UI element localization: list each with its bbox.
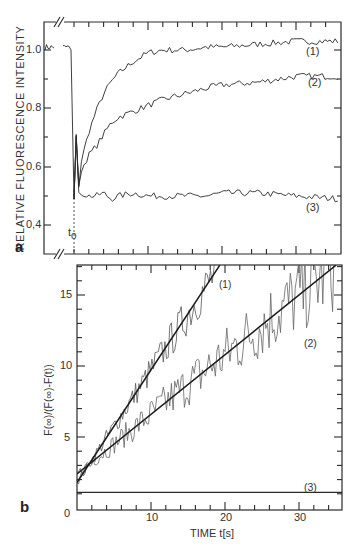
panel-b-xtick-10: 10 (146, 511, 158, 523)
panel-b-xtick-30: 30 (294, 511, 306, 523)
figure: RELATIVE FLUORESCENCE INTENSITY 1.0 0.8 … (0, 0, 361, 551)
panel-b-xtick-20: 20 (220, 511, 232, 523)
curve-1-data (77, 244, 219, 484)
panel-b-curve-3-label: (3) (304, 481, 317, 493)
panel-b-curve-2-label: (2) (304, 337, 317, 349)
panel-b-curve-1-label: (1) (219, 279, 231, 290)
panel-b-ytick-5: 5 (64, 431, 70, 443)
panel-b-x-axis-label: TIME t[s] (190, 527, 234, 539)
panel-b-plot (0, 0, 361, 551)
panel-b-ytick-0: 0 (64, 507, 70, 519)
panel-b-y-axis-label: F(∞)/(F(∞)-F(t)) (42, 364, 54, 436)
panel-b-ytick-10: 10 (60, 359, 72, 371)
panel-b-letter: b (20, 498, 29, 515)
panel-b-ytick-15: 15 (60, 288, 72, 300)
curve-2-fit (77, 265, 336, 474)
curve-1-fit (77, 265, 220, 482)
curve-2-data (77, 229, 339, 473)
